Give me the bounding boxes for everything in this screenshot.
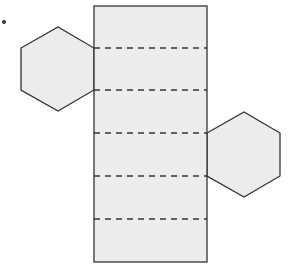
prism-net-diagram [0,0,293,267]
lateral-faces-rectangle [94,6,207,262]
left-hexagon [21,27,94,111]
right-hexagon [207,112,280,197]
bullet-dot [2,20,6,24]
